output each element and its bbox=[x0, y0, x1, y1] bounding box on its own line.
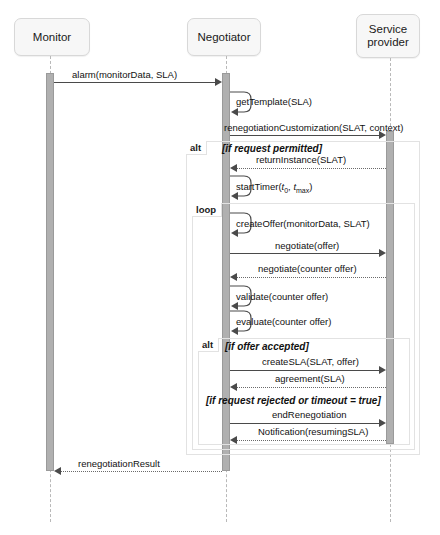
lifeline-head-monitor[interactable]: Monitor bbox=[14, 18, 90, 56]
arrow-head-negotiate-offer bbox=[379, 249, 386, 257]
fragment-label-loop: loop bbox=[192, 203, 222, 217]
arrow-head-create-sla bbox=[379, 366, 386, 374]
lifeline-head-negotiator[interactable]: Negotiator bbox=[187, 18, 261, 56]
guard-if-offer-accepted: [if offer accepted] bbox=[225, 341, 309, 353]
message-label-start-timer: startTimer(t0, tmax) bbox=[236, 181, 312, 196]
sequence-diagram-canvas: Monitor Negotiator Service provider alt … bbox=[0, 0, 440, 535]
arrow-head-end-renegotiation bbox=[379, 419, 386, 427]
arrow-head-renegotiation-result bbox=[54, 467, 61, 475]
start-timer-sub-max: max bbox=[296, 187, 309, 194]
message-line-alarm bbox=[54, 82, 215, 83]
lifeline-head-service-provider[interactable]: Service provider bbox=[356, 14, 420, 58]
arrow-head-agreement bbox=[230, 383, 237, 391]
message-line-end-renegotiation bbox=[230, 423, 379, 424]
guard-if-request-rejected: [if request rejected or timeout = true] bbox=[206, 395, 381, 407]
message-label-get-template: getTemplate(SLA) bbox=[236, 96, 312, 107]
start-timer-suffix: ) bbox=[309, 181, 312, 192]
message-label-create-offer: createOffer(monitorData, SLAT) bbox=[236, 218, 370, 229]
message-line-negotiate-offer bbox=[230, 253, 379, 254]
message-line-agreement bbox=[237, 387, 386, 388]
message-label-renegotiation-customization: renegotiationCustomization(SLAT, context… bbox=[224, 122, 403, 133]
message-label-evaluate-counter-offer: evaluate(counter offer) bbox=[236, 316, 331, 327]
lifeline-label-negotiator: Negotiator bbox=[197, 31, 250, 44]
arrow-head-renegotiation-customization bbox=[379, 131, 386, 139]
lifeline-label-monitor: Monitor bbox=[33, 31, 71, 44]
start-timer-prefix: startTimer( bbox=[236, 181, 282, 192]
message-line-create-sla bbox=[230, 370, 379, 371]
message-line-return-instance bbox=[237, 168, 386, 169]
arrow-head-notification bbox=[230, 436, 237, 444]
arrow-head-alarm bbox=[215, 78, 222, 86]
message-line-renegotiation-result bbox=[61, 471, 222, 472]
message-label-notification: Notification(resumingSLA) bbox=[258, 426, 368, 437]
message-line-renegotiation-customization bbox=[230, 135, 379, 136]
message-line-notification bbox=[237, 440, 386, 441]
message-label-end-renegotiation: endRenegotiation bbox=[272, 409, 346, 420]
message-label-negotiate-counter-offer: negotiate(counter offer) bbox=[258, 263, 357, 274]
message-label-agreement: agreement(SLA) bbox=[275, 373, 345, 384]
message-label-negotiate-offer: negotiate(offer) bbox=[275, 240, 339, 251]
fragment-label-alt-outer: alt bbox=[186, 141, 207, 155]
message-line-negotiate-counter-offer bbox=[237, 277, 386, 278]
message-label-create-sla: createSLA(SLAT, offer) bbox=[262, 356, 359, 367]
activation-monitor bbox=[46, 73, 54, 471]
message-label-alarm: alarm(monitorData, SLA) bbox=[72, 69, 177, 80]
message-label-renegotiation-result: renegotiationResult bbox=[78, 458, 160, 469]
lifeline-label-service-provider-line2: provider bbox=[367, 36, 409, 49]
arrow-head-return-instance bbox=[230, 164, 237, 172]
arrow-head-negotiate-counter-offer bbox=[230, 273, 237, 281]
message-label-return-instance: returnInstance(SLAT) bbox=[256, 154, 346, 165]
fragment-label-alt-inner: alt bbox=[198, 338, 219, 352]
lifeline-label-service-provider-line1: Service bbox=[369, 23, 407, 36]
message-label-validate-counter-offer: validate(counter offer) bbox=[236, 291, 328, 302]
